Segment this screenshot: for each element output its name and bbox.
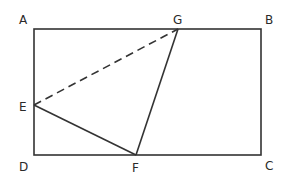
label-g: G bbox=[173, 13, 182, 27]
label-b: B bbox=[265, 13, 273, 27]
geometry-diagram: A B G E D F C bbox=[0, 0, 285, 180]
label-d: D bbox=[19, 160, 28, 174]
segment-ef bbox=[34, 105, 136, 155]
label-e: E bbox=[19, 100, 27, 114]
label-c: C bbox=[265, 159, 273, 173]
label-f: F bbox=[132, 161, 139, 175]
label-a: A bbox=[19, 13, 28, 27]
rectangle-abcd bbox=[34, 29, 261, 155]
